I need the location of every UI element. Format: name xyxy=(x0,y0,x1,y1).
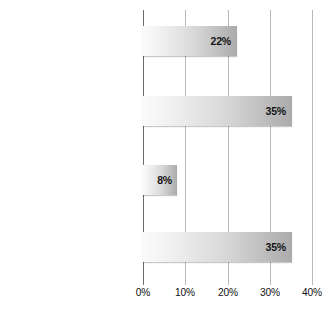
bar-value-label: 35% xyxy=(266,241,286,253)
bar-group-3[interactable]: 8% xyxy=(143,165,177,195)
tick-label-0: 0% xyxy=(136,287,150,298)
bar-group-4[interactable]: 35% xyxy=(143,232,292,262)
bar-fill: 35% xyxy=(143,232,292,262)
x-axis-tick-labels: 0% 10% 20% 30% 40% xyxy=(143,287,313,301)
bar-group-2[interactable]: 35% xyxy=(143,96,292,126)
tick-label-10: 10% xyxy=(175,287,195,298)
gridline-40 xyxy=(312,10,313,285)
plot-area: 22% 35% 8% 35% xyxy=(143,10,313,285)
bar-fill: 35% xyxy=(143,96,292,126)
tick-label-40: 40% xyxy=(302,287,322,298)
bar-value-label: 22% xyxy=(211,35,231,47)
bar-chart: Group 1 One episode only; no impairment … xyxy=(0,0,332,309)
chart-caption xyxy=(0,302,332,309)
bar-value-label: 35% xyxy=(266,105,286,117)
tick-label-30: 30% xyxy=(260,287,280,298)
bar-group-1[interactable]: 22% xyxy=(143,26,237,56)
bar-value-label: 8% xyxy=(157,174,172,186)
tick-label-20: 20% xyxy=(218,287,238,298)
bar-fill: 8% xyxy=(143,165,177,195)
bar-fill: 22% xyxy=(143,26,237,56)
category-labels: Group 1 One episode only; no impairment … xyxy=(0,0,139,309)
